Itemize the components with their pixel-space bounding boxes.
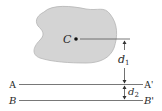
axis-b-right-label: B' <box>143 95 154 106</box>
axis-b-left-label: B <box>8 95 16 106</box>
axis-a-left-label: A <box>9 79 17 90</box>
centroid-dot <box>74 37 78 41</box>
parallel-axis-diagram: C d1 A A' d2 B B' <box>0 0 162 111</box>
area-shape <box>34 6 117 63</box>
centroid-label: C <box>63 33 72 46</box>
axis-a-right-label: A' <box>144 79 153 90</box>
d2-label: d2 <box>128 86 139 99</box>
d2-arrow-down-icon <box>123 96 127 100</box>
d1-label: d1 <box>118 53 130 67</box>
d1-arrow-up-icon <box>123 41 127 45</box>
d1-arrow-down-icon <box>123 80 127 84</box>
d2-arrow-up-icon <box>123 86 127 90</box>
